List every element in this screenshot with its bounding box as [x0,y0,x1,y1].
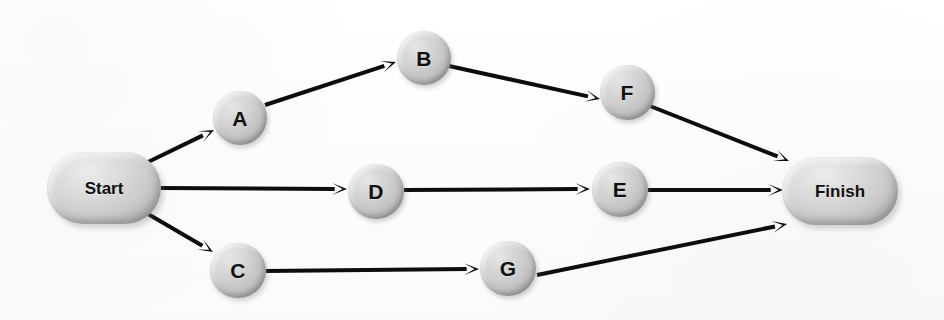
edge-line [537,226,775,275]
node-c[interactable]: C [210,243,266,298]
node-label: G [500,258,517,279]
edge-line [650,106,778,156]
node-finish[interactable]: Finish [782,157,898,225]
edge-line [266,269,467,271]
node-label: Start [85,180,124,197]
node-start[interactable]: Start [47,152,161,224]
edge-g-finish [537,221,787,275]
node-d[interactable]: D [348,164,404,219]
node-label: B [416,48,431,69]
node-e[interactable]: E [592,162,648,217]
node-label: D [368,181,383,202]
edge-b-f [449,66,600,102]
edge-d-e [404,183,590,195]
network-diagram: StartABFDECGFinish [0,0,944,320]
edge-a-b [265,61,396,105]
node-label: F [620,82,633,103]
edge-line [148,214,202,246]
edge-line [449,66,588,96]
edge-line [146,135,203,163]
edge-start-d [160,183,347,195]
edge-line [404,189,578,190]
edge-line [265,66,384,105]
node-label: Finish [815,183,865,200]
node-b[interactable]: B [397,31,451,85]
edge-c-g [266,263,479,275]
node-a[interactable]: A [213,91,267,145]
node-g[interactable]: G [480,241,536,296]
edge-e-finish [648,184,783,196]
edge-line [160,188,335,189]
node-f[interactable]: F [600,65,655,120]
edge-start-a [146,130,214,163]
node-label: A [232,108,247,129]
node-label: C [230,260,245,281]
edge-f-finish [650,106,789,161]
node-label: E [613,179,627,200]
edge-start-c [148,214,213,252]
